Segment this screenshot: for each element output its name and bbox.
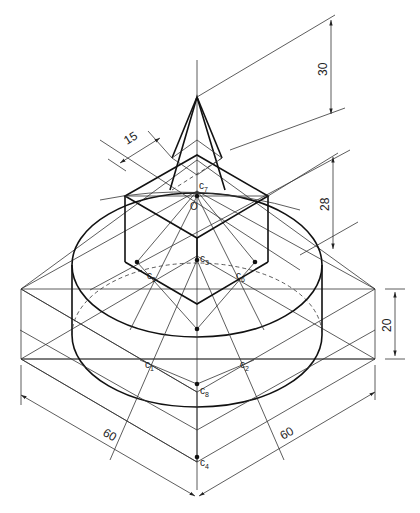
pyramid <box>170 97 225 190</box>
point-cube-front <box>195 327 200 332</box>
label-c8: c8 <box>200 385 209 398</box>
label-c2: c2 <box>240 359 249 372</box>
label-c1: c1 <box>145 359 154 372</box>
dim-label-20: 20 <box>380 318 394 332</box>
dimension-30: 30 <box>197 15 345 150</box>
center-points <box>135 194 258 460</box>
dim-label-60-left: 60 <box>101 425 120 444</box>
dimension-15: 15 <box>108 128 172 171</box>
point-c7 <box>195 194 200 199</box>
label-c7: c7 <box>199 180 208 193</box>
point-c8 <box>195 382 200 387</box>
point-c6 <box>253 260 258 265</box>
dimension-20: 20 <box>380 289 405 359</box>
point-c4 <box>195 455 200 460</box>
label-c5: c5 <box>147 270 156 283</box>
label-origin: O <box>190 201 198 212</box>
dim-label-28: 28 <box>318 197 332 211</box>
dimension-28: 28 <box>268 153 358 255</box>
label-c4: c4 <box>200 457 209 470</box>
point-c5 <box>135 260 140 265</box>
point-c3 <box>195 258 200 263</box>
dim-label-30: 30 <box>316 62 330 76</box>
dim-label-15: 15 <box>121 128 140 147</box>
isometric-drawing: 30 28 15 20 60 60 <box>0 0 420 513</box>
cube <box>125 155 268 304</box>
label-c3: c3 <box>200 253 209 266</box>
